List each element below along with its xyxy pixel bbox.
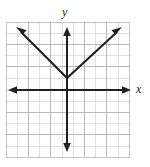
x-axis-label: x (136, 83, 141, 95)
x-axis-left-arrowhead (8, 86, 17, 94)
x-axis-right-arrowhead (122, 86, 131, 94)
y-axis-top-arrowhead (63, 27, 71, 36)
y-axis-label: y (62, 6, 67, 18)
x-axis (8, 86, 131, 94)
graph-figure: y x (0, 0, 150, 167)
coordinate-plane (0, 0, 150, 167)
y-axis-bottom-arrowhead (63, 143, 71, 152)
